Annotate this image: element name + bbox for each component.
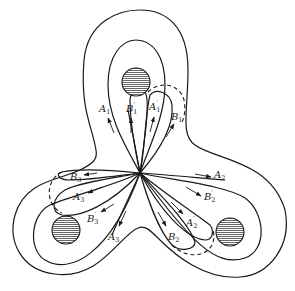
- right-middle-contour: [140, 173, 261, 260]
- arrows: [84, 117, 211, 226]
- ray-a2: [140, 173, 225, 180]
- label-b1: B1: [170, 111, 183, 124]
- arrow-a3p: [88, 187, 102, 193]
- label-a3p: A3′: [72, 189, 84, 204]
- label-a2p: A2′: [185, 215, 197, 230]
- center-point: [138, 171, 141, 174]
- label-a1: A1: [98, 103, 110, 116]
- label-a1p: A1′: [148, 99, 160, 114]
- label-b2p: B2′: [203, 189, 216, 204]
- label-b3p: B3′: [86, 211, 99, 226]
- ray-b1p: [128, 110, 140, 173]
- right-obstacle: [216, 218, 244, 246]
- label-b3: B3: [69, 171, 82, 184]
- arrow-b3p: [101, 204, 114, 212]
- top-obstacle: [122, 68, 150, 96]
- label-a3: A3: [107, 231, 119, 244]
- arrow-a2: [195, 174, 211, 177]
- arrow-b2p: [186, 187, 201, 196]
- arrow-b3: [84, 173, 97, 175]
- label-b1p: B1′: [125, 101, 138, 116]
- arrow-a1: [108, 118, 114, 133]
- left-obstacle: [52, 216, 80, 244]
- arrow-a1p: [150, 117, 154, 132]
- three-lobe-diagram: A1B1′A1′B1A2B2′A2′B2B3A3′B3′A3: [0, 0, 295, 291]
- labels: A1B1′A1′B1A2B2′A2′B2B3A3′B3′A3: [69, 99, 225, 244]
